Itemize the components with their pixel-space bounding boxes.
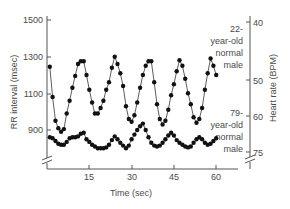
- data-point: [104, 88, 108, 92]
- data-point: [135, 100, 139, 104]
- data-point: [53, 119, 57, 123]
- data-point: [144, 128, 148, 132]
- data-point: [56, 126, 60, 130]
- left-axis: 1500 1300 1100 900 RR interval (msec): [9, 15, 52, 169]
- svg-text:male: male: [223, 144, 243, 154]
- y-tick-900: 900: [28, 125, 43, 135]
- data-point: [138, 86, 142, 90]
- data-point: [62, 127, 66, 131]
- data-point: [200, 106, 204, 110]
- data-point: [180, 64, 184, 68]
- data-point: [96, 111, 100, 115]
- y-right-tick-50: 50: [253, 76, 263, 86]
- data-point: [73, 74, 77, 78]
- data-point: [189, 102, 193, 106]
- y-tick-1100: 1100: [24, 89, 43, 99]
- data-point: [194, 121, 198, 125]
- data-point: [110, 138, 114, 142]
- data-point: [141, 73, 145, 77]
- x-axis-title: Time (sec): [110, 188, 152, 198]
- data-point: [175, 69, 179, 73]
- data-point: [206, 71, 210, 75]
- x-tick-15: 15: [84, 172, 94, 182]
- y-tick-1300: 1300: [23, 52, 43, 62]
- data-point: [129, 137, 133, 141]
- data-point: [214, 136, 218, 140]
- series-22-year-old: [48, 55, 219, 135]
- data-point: [152, 80, 156, 84]
- data-point: [163, 137, 167, 141]
- svg-text:22-: 22-: [230, 24, 243, 34]
- data-point: [65, 111, 69, 115]
- data-point: [98, 106, 102, 110]
- data-point: [82, 131, 86, 135]
- series-79-year-old: [48, 121, 219, 150]
- data-point: [160, 122, 164, 126]
- data-point: [82, 59, 86, 63]
- svg-text:normal: normal: [215, 48, 243, 58]
- data-point: [118, 71, 122, 75]
- svg-text:male: male: [223, 60, 243, 70]
- right-axis: 40 50 60 75 Heart rate (BPM): [245, 16, 278, 169]
- data-point: [172, 133, 176, 137]
- data-point: [121, 84, 125, 88]
- data-point: [132, 132, 136, 136]
- data-point: [189, 144, 193, 148]
- y-axis-title: RR interval (msec): [9, 55, 19, 130]
- data-point: [155, 102, 159, 106]
- data-point: [127, 143, 131, 147]
- x-axis: 15 30 45 60 Time (sec): [47, 165, 238, 198]
- svg-text:year-old: year-old: [210, 36, 243, 46]
- data-point: [203, 88, 207, 92]
- y-right-tick-75: 75: [253, 148, 263, 158]
- data-point: [200, 137, 204, 141]
- data-point: [48, 65, 52, 69]
- data-point: [149, 59, 153, 63]
- data-point: [50, 95, 54, 99]
- data-point: [160, 141, 164, 145]
- data-point: [124, 104, 128, 108]
- data-point: [90, 100, 94, 104]
- data-point: [191, 115, 195, 119]
- x-tick-60: 60: [211, 172, 221, 182]
- data-point: [107, 143, 111, 147]
- data-point: [166, 108, 170, 112]
- x-tick-30: 30: [127, 172, 137, 182]
- data-point: [115, 62, 119, 66]
- data-point: [163, 119, 167, 123]
- data-point: [84, 73, 88, 77]
- data-point: [65, 140, 69, 144]
- data-point: [70, 86, 74, 90]
- svg-text:normal: normal: [215, 132, 243, 142]
- annotation-old: 79- year-old normal male: [210, 108, 243, 154]
- data-point: [101, 99, 105, 103]
- x-tick-45: 45: [169, 172, 179, 182]
- data-point: [214, 73, 218, 77]
- data-point: [169, 93, 173, 97]
- data-point: [144, 64, 148, 68]
- data-point: [191, 141, 195, 145]
- data-point: [146, 135, 150, 139]
- annotation-young: 22- year-old normal male: [210, 24, 243, 70]
- data-point: [129, 120, 133, 124]
- data-point: [132, 113, 136, 117]
- svg-text:year-old: year-old: [210, 120, 243, 130]
- y-right-tick-40: 40: [253, 18, 263, 28]
- data-point: [172, 82, 176, 86]
- data-point: [208, 56, 212, 60]
- data-point: [67, 99, 71, 103]
- data-point: [177, 58, 181, 62]
- rr-interval-chart: 1500 1300 1100 900 RR interval (msec) 15…: [0, 0, 290, 209]
- data-point: [107, 80, 111, 84]
- data-point: [186, 91, 190, 95]
- svg-text:79-: 79-: [230, 108, 243, 118]
- data-point: [135, 128, 139, 132]
- data-point: [158, 117, 162, 121]
- data-point: [113, 55, 117, 59]
- data-point: [211, 64, 215, 68]
- data-point: [87, 88, 91, 92]
- data-point: [115, 137, 119, 141]
- y-right-axis-title: Heart rate (BPM): [268, 54, 278, 122]
- data-point: [183, 77, 187, 81]
- data-point: [110, 66, 114, 70]
